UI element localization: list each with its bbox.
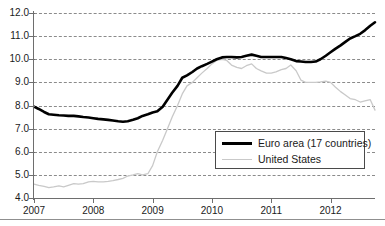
y-tick-8.0	[29, 106, 35, 107]
x-label-2008: 2008	[71, 205, 115, 216]
y-label-7.0: 7.0	[2, 124, 29, 134]
legend-item-euro-area: Euro area (17 countries)	[222, 135, 371, 151]
y-axis-labels: 12.011.010.09.08.07.06.05.04.0	[0, 0, 29, 226]
x-label-2009: 2009	[131, 205, 175, 216]
y-tick-5.0	[29, 175, 35, 176]
series-lines	[34, 13, 375, 198]
unemployment-rate-line-chart: 12.011.010.09.08.07.06.05.04.0 200720082…	[0, 0, 385, 226]
chart-legend: Euro area (17 countries) United States	[215, 131, 365, 169]
y-tick-11.0	[29, 36, 35, 37]
legend-swatch-us-line-icon	[222, 154, 252, 164]
legend-label-euro-area: Euro area (17 countries)	[258, 138, 371, 149]
plot-area	[34, 13, 375, 198]
y-label-8.0: 8.0	[2, 101, 29, 111]
y-tick-7.0	[29, 129, 35, 130]
y-label-10.0: 10.0	[2, 54, 29, 64]
x-tick-2012	[331, 198, 332, 203]
legend-label-united-states: United States	[258, 154, 321, 165]
x-label-2011: 2011	[249, 205, 293, 216]
y-tick-6.0	[29, 152, 35, 153]
x-label-2012: 2012	[309, 205, 353, 216]
x-tick-2011	[271, 198, 272, 203]
legend-item-united-states: United States	[222, 151, 321, 167]
x-tick-2010	[212, 198, 213, 203]
y-label-5.0: 5.0	[2, 170, 29, 180]
y-label-9.0: 9.0	[2, 77, 29, 87]
y-tick-10.0	[29, 59, 35, 60]
x-axis-line	[34, 198, 375, 199]
x-tick-2008	[93, 198, 94, 203]
legend-swatch-euro-line-icon	[222, 138, 252, 148]
y-tick-12.0	[29, 13, 35, 14]
footer-divider	[0, 219, 385, 220]
series-line-euro-area	[34, 22, 375, 121]
y-label-12.0: 12.0	[2, 8, 29, 18]
y-label-6.0: 6.0	[2, 147, 29, 157]
x-label-2007: 2007	[12, 205, 56, 216]
y-label-4.0: 4.0	[2, 193, 29, 203]
x-tick-2009	[153, 198, 154, 203]
x-label-2010: 2010	[190, 205, 234, 216]
y-tick-9.0	[29, 82, 35, 83]
x-tick-2007	[34, 198, 35, 203]
y-label-11.0: 11.0	[2, 31, 29, 41]
